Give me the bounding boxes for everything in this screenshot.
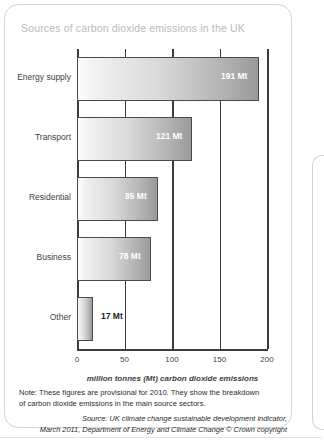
x-tick-label-200: 200 [260,355,273,364]
adjacent-card-sliver [312,155,324,430]
gridline-200 [267,49,269,349]
bar-other[interactable] [77,297,93,341]
x-tick-label-150: 150 [213,355,226,364]
bar-value-other: 17 Mt [101,311,123,321]
chart-note: Note: These figures are provisional for … [19,388,287,409]
category-label-business: Business [7,252,71,262]
chart-note-line-2: of carbon dioxide emissions in the main … [19,399,206,408]
page-title: Sources of carbon dioxide emissions in t… [21,22,245,34]
chart-plot-area: 191 Mt Energy supply 121 Mt Transport 85… [5,49,297,349]
x-tick-label-100: 100 [165,355,178,364]
bar-value-transport: 121 Mt [156,131,182,141]
chart-card: Sources of carbon dioxide emissions in t… [4,4,292,428]
category-label-energy-supply: Energy supply [7,72,71,82]
category-label-transport: Transport [7,132,71,142]
x-tick-label-0: 0 [75,355,79,364]
chart-source: Source: UK climate change sustainable de… [19,414,287,435]
page-divider [0,437,322,438]
chart-note-line-1: Note: These figures are provisional for … [19,388,259,397]
x-tick-label-50: 50 [120,355,129,364]
chart-source-line-1: Source: UK climate change sustainable de… [82,414,287,423]
bar-value-energy-supply: 191 Mt [221,71,247,81]
bar-value-residential: 85 Mt [125,191,147,201]
category-label-other: Other [7,312,71,322]
chart-source-line-2: March 2011, Department of Energy and Cli… [40,425,287,434]
bar-value-business: 78 Mt [119,251,141,261]
x-axis-title: million tonnes (Mt) carbon dioxide emiss… [77,374,268,383]
category-label-residential: Residential [7,192,71,202]
x-axis-line [77,349,268,351]
